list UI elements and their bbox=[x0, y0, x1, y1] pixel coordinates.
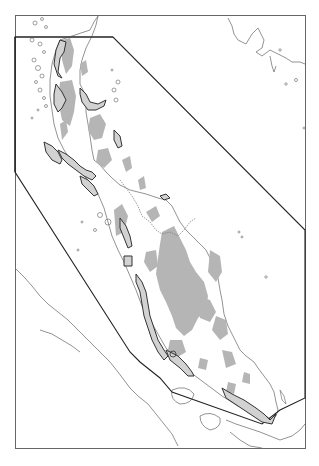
map-frame bbox=[16, 16, 306, 449]
map-figure bbox=[0, 0, 319, 466]
map-canvas bbox=[0, 0, 319, 466]
